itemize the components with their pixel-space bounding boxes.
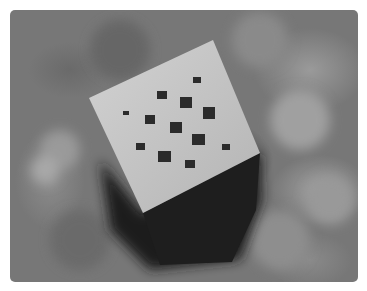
- photo: [10, 10, 358, 282]
- cube-illustration: [10, 10, 358, 282]
